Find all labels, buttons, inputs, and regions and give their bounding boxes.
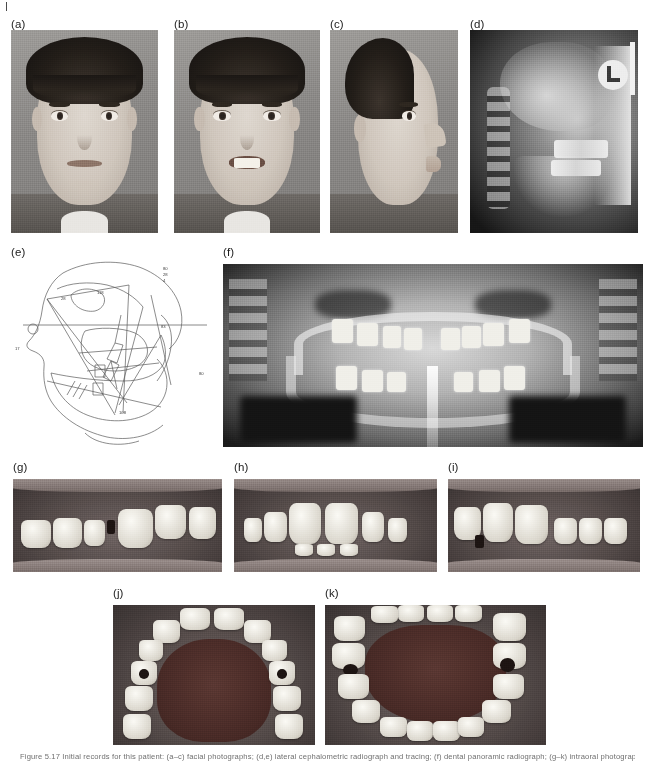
tooth bbox=[139, 640, 163, 661]
ceph-measurement-28b: 28 bbox=[61, 296, 66, 301]
mandibular-teeth bbox=[551, 160, 601, 176]
panel-h-frontal-intraoral-photo bbox=[234, 479, 437, 572]
ceph-measurement-80b: 80 bbox=[199, 371, 204, 376]
tooth bbox=[125, 686, 153, 711]
panel-label-i: (i) bbox=[448, 462, 459, 474]
tooth bbox=[317, 544, 335, 556]
tooth bbox=[483, 323, 504, 347]
tooth bbox=[398, 605, 425, 622]
panel-e-cephalometric-tracing: 80 28 4 118 28 83 17 80 108 bbox=[11, 255, 221, 450]
tooth bbox=[275, 714, 303, 739]
panel-c-profile-face-photo bbox=[330, 30, 458, 233]
tooth bbox=[441, 328, 460, 350]
tooth bbox=[338, 674, 369, 699]
upper-lip-retractor bbox=[13, 479, 222, 492]
caries-shadow bbox=[500, 658, 515, 672]
tooth bbox=[244, 518, 262, 542]
panel-a-frontal-face-photo bbox=[11, 30, 158, 233]
tooth bbox=[180, 608, 210, 630]
tooth bbox=[334, 616, 365, 641]
tooth bbox=[340, 544, 358, 556]
ceph-measurement-17: 17 bbox=[15, 346, 20, 351]
panel-g-right-buccal-intraoral-photo bbox=[13, 479, 222, 572]
tooth bbox=[554, 518, 577, 544]
tooth bbox=[371, 606, 398, 623]
ceph-measurement-28a: 28 bbox=[163, 272, 168, 277]
tooth bbox=[264, 512, 286, 542]
panel-j-maxillary-occlusal-photo bbox=[113, 605, 315, 745]
panel-label-j: (j) bbox=[113, 588, 124, 600]
tooth bbox=[383, 326, 402, 348]
teeth bbox=[234, 158, 260, 169]
tooth bbox=[493, 613, 526, 641]
tooth bbox=[462, 326, 481, 348]
panel-label-h: (h) bbox=[234, 462, 248, 474]
film-edge-marker bbox=[630, 42, 635, 95]
eyebrow-left bbox=[49, 102, 70, 107]
tooth bbox=[407, 721, 434, 741]
tooth bbox=[362, 512, 384, 542]
tooth bbox=[404, 328, 423, 350]
tooth bbox=[362, 370, 383, 392]
panel-i-left-buccal-intraoral-photo bbox=[448, 479, 640, 572]
tooth bbox=[483, 503, 514, 542]
beam-artefact bbox=[427, 366, 438, 447]
airway-shadow-right bbox=[509, 396, 627, 444]
airway-shadow-left bbox=[240, 396, 358, 444]
tooth bbox=[455, 605, 482, 622]
tooth bbox=[380, 717, 407, 737]
tooth bbox=[262, 640, 286, 661]
ear-left bbox=[32, 107, 42, 131]
tooth bbox=[504, 366, 525, 390]
panel-label-d: (d) bbox=[470, 19, 484, 31]
panel-b-smiling-face-photo bbox=[174, 30, 320, 233]
caries-shadow bbox=[277, 669, 287, 679]
interdental-shadow bbox=[475, 535, 485, 548]
lower-lip-retractor bbox=[448, 559, 640, 572]
shirt bbox=[224, 211, 271, 233]
tooth bbox=[454, 372, 473, 392]
tooth bbox=[123, 714, 151, 739]
figure-page: (a) (b) bbox=[0, 0, 652, 761]
panel-label-c: (c) bbox=[330, 19, 344, 31]
panel-d-lateral-cephalometric-radiograph bbox=[470, 30, 638, 233]
tooth bbox=[493, 674, 524, 699]
maxillary-teeth bbox=[554, 140, 608, 158]
lower-lip-retractor bbox=[13, 559, 222, 572]
tooth bbox=[479, 370, 500, 392]
tooth bbox=[21, 520, 50, 548]
ceph-measurement-118: 118 bbox=[97, 290, 104, 295]
lower-lip-retractor bbox=[234, 559, 437, 572]
tooth bbox=[336, 366, 357, 390]
tooth bbox=[289, 503, 321, 544]
crop-mark-icon bbox=[6, 2, 7, 11]
panel-f-panoramic-radiograph bbox=[223, 264, 643, 447]
upper-lip-retractor bbox=[448, 479, 640, 492]
tooth bbox=[388, 518, 406, 542]
mouth bbox=[67, 160, 102, 167]
tooth bbox=[515, 505, 548, 544]
tooth bbox=[458, 717, 485, 737]
ceph-measurement-108: 108 bbox=[119, 410, 127, 415]
nose bbox=[77, 125, 92, 149]
shirt bbox=[61, 211, 108, 233]
ramus-right bbox=[599, 279, 637, 381]
tooth bbox=[84, 520, 105, 546]
ear-right bbox=[289, 107, 299, 131]
panel-k-mandibular-occlusal-photo bbox=[325, 605, 546, 745]
figure-caption: Figure 5.17 Initial records for this pat… bbox=[20, 752, 635, 761]
panel-label-b: (b) bbox=[174, 19, 188, 31]
panel-label-k: (k) bbox=[325, 588, 339, 600]
tooth bbox=[433, 721, 460, 741]
tooth bbox=[604, 518, 627, 544]
eyebrow-right bbox=[99, 102, 120, 107]
tooth bbox=[387, 372, 406, 392]
tooth bbox=[579, 518, 602, 544]
interdental-shadow bbox=[107, 520, 115, 534]
tooth bbox=[357, 323, 378, 347]
tooth bbox=[189, 507, 216, 539]
tooth bbox=[509, 319, 530, 343]
chin bbox=[60, 180, 110, 196]
fringe bbox=[196, 75, 298, 99]
ear-left bbox=[194, 107, 204, 131]
